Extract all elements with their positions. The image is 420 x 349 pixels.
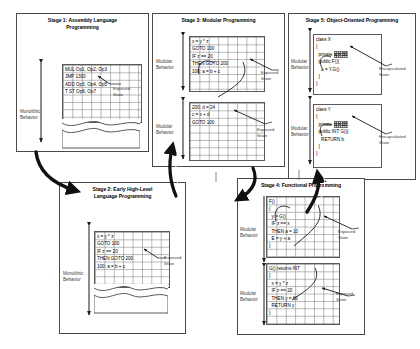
stage5-code-sheet-2: class Y{ private b = 20 public INT G(){ … <box>313 104 382 168</box>
code-line: 100: a = b + c <box>192 68 263 75</box>
code-line: x = y * z <box>192 38 263 45</box>
code-line: GOTO 100 <box>192 45 263 52</box>
panel-stage5: Stage 5: Object-Oriented Programming Mod… <box>288 13 416 180</box>
code-line: y = G() <box>269 213 338 220</box>
code-line: public INT G(){ <box>316 128 380 135</box>
code-line: IF z == x <box>269 220 338 227</box>
code-line: } <box>316 150 380 157</box>
stage2-behavior-label: Monolithic Behavior <box>63 271 83 283</box>
code-line: GOTO 100 <box>97 240 168 247</box>
code-line: private b = 20 <box>316 121 380 128</box>
code-line: } <box>316 143 380 150</box>
code-line: public F(){ <box>316 58 380 65</box>
code-line: 100: a = b + c <box>97 263 168 270</box>
stage3-code-sheet-2: 200: d = 24c = x + dGOTO 100 <box>189 102 265 161</box>
code-line: RETURN b <box>316 136 380 143</box>
code-line: RETURN y <box>269 302 338 309</box>
stage3-code-sheet-1: x = y * zGOTO 100IF z == 20THEN GOTO 200… <box>189 36 265 92</box>
encapsulated-state-highlight: b = 20 <box>334 121 348 128</box>
stage3-code-1: x = y * zGOTO 100IF z == 20THEN GOTO 200… <box>192 38 263 75</box>
stage4-code-sheet-2: G() returns INT{ x = y * z IF z == 20 TH… <box>266 263 340 325</box>
code-line: THEN a = 10 <box>269 228 338 235</box>
stage2-torn-continuation <box>94 284 168 314</box>
stage4-behavior-label-top: Modular Behavior <box>240 227 258 239</box>
code-line: GOTO 100 <box>192 119 263 126</box>
stage4-code-1: F(){ y = G() IF z == x THEN a = 10 E = y… <box>269 198 338 250</box>
code-line: THEN GOTO 200 <box>192 60 263 67</box>
stage3-title: Stage 3: Modular Programming <box>153 17 284 24</box>
code-line: F() <box>269 198 338 205</box>
stage5-code-2: class Y{ private b = 20 public INT G(){ … <box>316 106 380 158</box>
stage4-code-sheet-1: F(){ y = G() IF z == x THEN a = 10 E = y… <box>266 196 340 258</box>
code-line: G() returns INT <box>269 265 338 272</box>
code-line: IF z == 20 <box>97 248 168 255</box>
code-line: THEN y = 60 <box>269 295 338 302</box>
code-line: { <box>269 272 338 279</box>
code-line: } <box>316 73 380 80</box>
code-line: x = y * z <box>97 233 168 240</box>
stage5-code-sheet-1: class X{ private a = 30 public F(){ a = … <box>313 34 382 95</box>
code-line: THEN GOTO 200 <box>97 255 168 262</box>
code-line: { <box>316 113 380 120</box>
code-line: 200: d = 24 <box>192 104 263 111</box>
code-line: } <box>269 242 338 249</box>
stage5-behavior-label-top: Modular Behavior <box>291 59 309 71</box>
code-line: { <box>269 205 338 212</box>
stage3-behavior-label-bottom: Modular Behavior <box>156 124 174 136</box>
stage4-title: Stage 4: Functional Programming <box>238 182 364 189</box>
stage4-state-label-1: Exposed State <box>338 229 355 240</box>
panel-stage1: Stage 1: Assembly Language Programming M… <box>16 13 149 152</box>
stage1-torn-continuation <box>62 119 140 149</box>
stage5-code-1: class X{ private a = 30 public F(){ a = … <box>316 36 380 88</box>
code-line: } <box>316 80 380 87</box>
stage4-code-2: G() returns INT{ x = y * z IF z == 20 TH… <box>269 265 338 317</box>
panel-stage2: Stage 2: Early High-Level Language Progr… <box>59 182 186 334</box>
stage3-behavior-label-top: Modular Behavior <box>156 59 174 71</box>
stage5-behavior-label-bottom: Modular Behavior <box>291 126 309 138</box>
stage4-state-label-2: Exposed State <box>336 291 353 302</box>
stage2-code: x = y * zGOTO 100IF z == 20THEN GOTO 200… <box>97 233 168 270</box>
panel-stage3: Stage 3: Modular Programming Modular Beh… <box>152 13 285 167</box>
code-line: class Y <box>316 106 380 113</box>
code-line: } <box>269 309 338 316</box>
encapsulated-state-highlight: a = 30 <box>334 51 348 58</box>
panel-stage4: Stage 4: Functional Programming Modular … <box>237 178 365 335</box>
stage5-title: Stage 5: Object-Oriented Programming <box>289 17 415 24</box>
code-line: MUL Op1, Op2, Op3 <box>65 66 140 73</box>
stage5-state-label-2: Encapsulated State <box>379 134 406 145</box>
code-line: E = y + a <box>269 235 338 242</box>
stage1-state-label: Exposed State <box>113 86 130 97</box>
stage2-state-label: Exposed State <box>164 255 181 266</box>
stage3-code-2: 200: d = 24c = x + dGOTO 100 <box>192 104 263 126</box>
stage5-state-label-1: Encapsulated State <box>379 66 406 77</box>
code-line: class X <box>316 36 380 43</box>
stage4-behavior-label-bottom: Modular Behavior <box>240 291 258 303</box>
code-line: JMP 1300 <box>65 73 140 80</box>
code-line: a = Y.G() <box>316 66 380 73</box>
stage3-state-label-2: Exposed State <box>257 127 274 138</box>
code-line: IF z == 20 <box>269 287 338 294</box>
code-line: { <box>316 43 380 50</box>
stage1-title: Stage 1: Assembly Language Programming <box>17 17 148 31</box>
stage1-behavior-label: Monolithic Behavior <box>20 109 40 121</box>
stage2-code-sheet: x = y * zGOTO 100IF z == 20THEN GOTO 200… <box>94 231 170 288</box>
code-line: c = x + d <box>192 111 263 118</box>
stage2-title: Stage 2: Early High-Level Language Progr… <box>60 186 185 200</box>
stage3-state-label-1: Exposed State <box>261 70 278 81</box>
code-line: x = y * z <box>269 280 338 287</box>
diagram-canvas: Stage 1: Assembly Language Programming M… <box>0 0 420 349</box>
code-line: IF z == 20 <box>192 53 263 60</box>
code-line: private a = 30 <box>316 51 380 58</box>
